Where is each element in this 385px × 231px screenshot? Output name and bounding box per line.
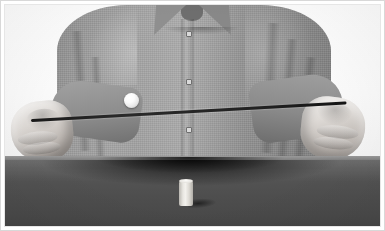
shirt-button: [186, 127, 192, 133]
cylinder: [179, 181, 193, 206]
ball: [124, 93, 139, 108]
shirt-button: [186, 31, 192, 37]
table-reflection: [95, 157, 285, 177]
shirt-button: [186, 79, 192, 85]
cylinder-top-face: [179, 179, 193, 183]
shirt-placket: [181, 19, 194, 165]
collar-shadow: [153, 27, 249, 41]
photograph: [5, 5, 380, 226]
screenshot-root: Black-and-white photograph of a seated p…: [0, 0, 385, 231]
